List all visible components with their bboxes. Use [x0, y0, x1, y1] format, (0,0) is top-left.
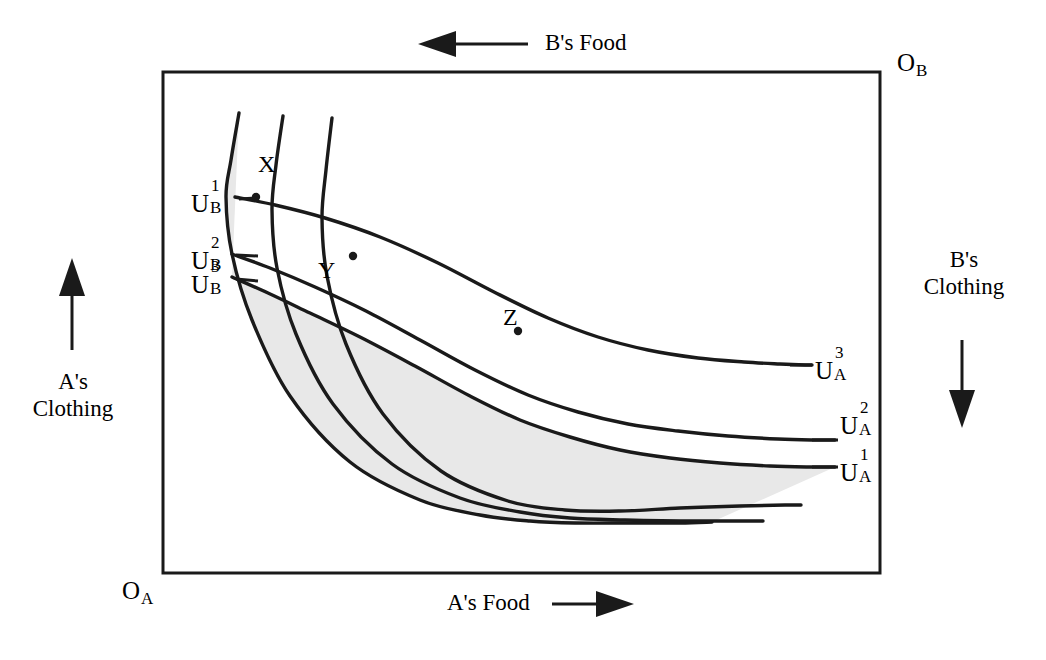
edgeworth-box-svg — [0, 0, 1046, 660]
curve-label-ua1-indices: 1A — [858, 456, 874, 481]
curve-label-ub3-sub: B — [210, 279, 221, 299]
left-axis-label-line1: A's — [18, 368, 128, 395]
curve-label-ua2-indices: 2A — [858, 409, 874, 434]
top-axis-label: B's Food — [545, 31, 626, 54]
curve-label-ua3-sub: A — [834, 365, 846, 385]
curve-label-ua1-sub: A — [859, 467, 871, 487]
edgeworth-box-figure: B's Food A's Food A's Clothing B's Cloth… — [0, 0, 1046, 660]
right-axis-label-line2: Clothing — [908, 273, 1020, 300]
curve-label-ub3: U3B — [191, 268, 225, 299]
curve-label-ub1-indices: 1B — [209, 187, 225, 212]
curve-label-ub3-letter: U — [191, 271, 209, 298]
curve-label-ub3-indices: 3B — [209, 268, 225, 293]
top-axis-arrow-group — [418, 31, 528, 57]
curve-label-ua3-sup: 3 — [835, 343, 844, 363]
point-label-y: Y — [318, 258, 335, 282]
left-axis-label-line2: Clothing — [18, 395, 128, 422]
bottom-axis-label: A's Food — [447, 591, 530, 614]
curve-label-ua2-sup: 2 — [860, 398, 869, 418]
point-label-z: Z — [503, 305, 518, 329]
right-arrow-icon — [596, 591, 634, 617]
up-arrow-icon — [59, 258, 85, 296]
curve-label-ub1: U1B — [191, 187, 225, 218]
curve-label-ua2: U2A — [840, 409, 874, 440]
right-axis-label-line1: B's — [908, 246, 1020, 273]
curve-label-ua1-letter: U — [840, 459, 858, 486]
curve-label-ua2-letter: U — [840, 412, 858, 439]
origin-label-b: OB — [897, 50, 926, 75]
point-dot-y — [349, 252, 357, 260]
origin-label-a: OA — [122, 578, 152, 603]
curve-label-ub1-sub: B — [210, 198, 221, 218]
curve-label-ub3-sup: 3 — [211, 257, 220, 277]
left-axis-arrow-group — [59, 258, 85, 350]
origin-b-subscript: B — [916, 61, 927, 80]
point-label-x: X — [258, 152, 275, 176]
left-arrow-icon — [418, 31, 456, 57]
leader-ub1 — [239, 198, 258, 199]
right-axis-label: B's Clothing — [908, 246, 1020, 300]
curve-label-ub2-sup: 2 — [211, 233, 220, 253]
bottom-axis-arrow-group — [552, 591, 634, 617]
down-arrow-icon — [949, 390, 975, 428]
curve-label-ua3-indices: 3A — [833, 354, 849, 379]
curve-label-ua1-sup: 1 — [860, 445, 869, 465]
right-axis-arrow-group — [949, 340, 975, 428]
leader-ub2 — [236, 255, 258, 256]
curve-label-ub1-letter: U — [191, 190, 209, 217]
origin-a-subscript: A — [141, 589, 153, 608]
origin-a-letter: O — [122, 577, 140, 604]
left-axis-label: A's Clothing — [18, 368, 128, 422]
curve-label-ua3-letter: U — [815, 357, 833, 384]
leader-ub3 — [236, 279, 258, 281]
curve-label-ua1: U1A — [840, 456, 874, 487]
curve-label-ub1-sup: 1 — [211, 176, 220, 196]
origin-b-letter: O — [897, 49, 915, 76]
curve-label-ua2-sub: A — [859, 420, 871, 440]
curve-label-ua3: U3A — [815, 354, 849, 385]
